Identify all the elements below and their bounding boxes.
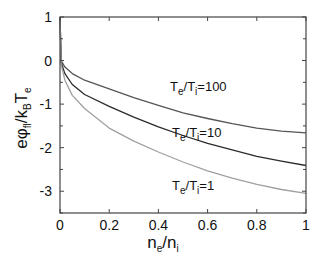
x-tick-label: 0 (56, 217, 64, 233)
x-tick-label: 0.2 (99, 217, 119, 233)
y-axis-label: eφfl/kBTe (12, 87, 33, 149)
line-chart: 00.20.40.60.81 10-1-2-3 Te/Ti=100Te/Ti=1… (0, 0, 323, 258)
x-axis-ticks: 00.20.40.60.81 (56, 17, 310, 233)
series-annotations: Te/Ti=100Te/Ti=10Te/Ti=1 (170, 79, 227, 196)
axes-frame (60, 17, 306, 213)
series-layer (60, 17, 306, 193)
x-tick-label: 0.8 (247, 217, 267, 233)
x-tick-label: 0.6 (198, 217, 218, 233)
y-tick-label: -2 (40, 140, 53, 156)
y-tick-label: -1 (40, 96, 53, 112)
series-annotation: Te/Ti=10 (172, 125, 221, 143)
y-tick-label: 0 (44, 53, 52, 69)
x-tick-label: 1 (302, 217, 310, 233)
series-annotation: Te/Ti=1 (172, 178, 214, 196)
x-tick-label: 0.4 (149, 217, 169, 233)
x-axis-label: ne/ni (147, 233, 178, 254)
y-tick-label: 1 (44, 9, 52, 25)
series-line (60, 17, 306, 193)
axes-box (60, 17, 306, 213)
series-annotation: Te/Ti=100 (170, 79, 227, 97)
y-tick-label: -3 (40, 183, 53, 199)
series-line (60, 17, 306, 133)
